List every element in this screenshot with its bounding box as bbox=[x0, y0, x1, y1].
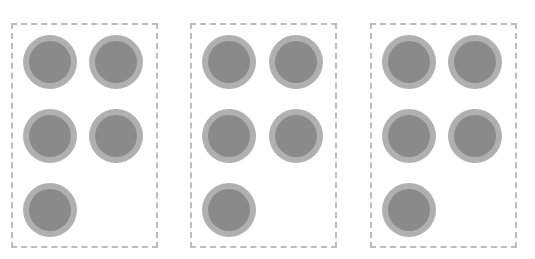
circle bbox=[448, 35, 502, 89]
circle bbox=[202, 109, 256, 163]
circle bbox=[448, 109, 502, 163]
circle bbox=[382, 183, 436, 237]
circle bbox=[89, 109, 143, 163]
group-3 bbox=[370, 23, 517, 248]
circle bbox=[382, 109, 436, 163]
circle bbox=[269, 109, 323, 163]
circle bbox=[23, 109, 77, 163]
circle bbox=[202, 35, 256, 89]
group-1 bbox=[11, 23, 158, 248]
circle bbox=[89, 35, 143, 89]
group-2 bbox=[190, 23, 337, 248]
circle bbox=[269, 35, 323, 89]
circle bbox=[202, 183, 256, 237]
circle bbox=[23, 183, 77, 237]
circle bbox=[382, 35, 436, 89]
circle bbox=[23, 35, 77, 89]
